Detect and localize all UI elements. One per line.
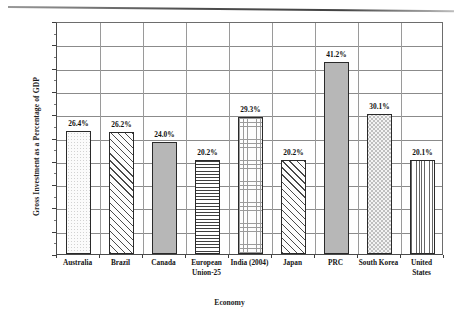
bar-value-label: 24.0% [154,130,174,139]
x-axis-title: Economy [0,298,459,307]
x-tick-mark [443,255,444,258]
x-tick-mark [99,255,100,258]
bar-value-label: 29.3% [240,105,260,114]
y-axis-title: Gross Investment as a Percentage of GDP [32,47,41,247]
bar-japan [281,160,305,254]
gridline-x [358,23,359,254]
x-tick-mark [56,255,57,258]
x-axis-tick-labels: AustraliaBrazilCanadaEuropeanUnion-25Ind… [56,258,443,296]
x-tick-mark [228,255,229,258]
gridline-x [401,23,402,254]
bar-value-label: 30.1% [369,102,389,111]
bar-brazil [109,132,133,254]
bar-united-states [410,160,434,254]
x-tick-mark [271,255,272,258]
bar-canada [152,142,176,254]
bar-value-label: 20.2% [283,148,303,157]
bar-india-2004 [238,117,262,254]
bar-value-label: 41.2% [326,50,346,59]
gridline-y [57,93,442,94]
gridline-x [143,23,144,254]
bar-value-label: 20.1% [412,148,432,157]
plot-area: 26.4%26.2%24.0%20.2%29.3%20.2%41.2%30.1%… [56,22,443,255]
gridline-x [315,23,316,254]
bar-value-label: 26.4% [68,119,88,128]
x-tick-mark [400,255,401,258]
x-tick-mark [142,255,143,258]
x-tick-mark [357,255,358,258]
x-tick-mark [314,255,315,258]
gridline-y [57,70,442,71]
gridline-y [57,46,442,47]
bar-value-label: 26.2% [111,120,131,129]
x-tick-label-united-states: UnitedStates [390,258,454,277]
gridline-x [272,23,273,254]
bar-prc [324,62,348,254]
bar-value-label: 20.2% [197,148,217,157]
x-tick-mark [185,255,186,258]
gridline-x [186,23,187,254]
bar-australia [66,131,90,254]
bar-south-korea [367,114,391,254]
gridline-x [100,23,101,254]
bar-european-union-25 [195,160,219,254]
bar-chart-figure: Gross Investment as a Percentage of GDP … [0,0,459,318]
gridline-x [229,23,230,254]
